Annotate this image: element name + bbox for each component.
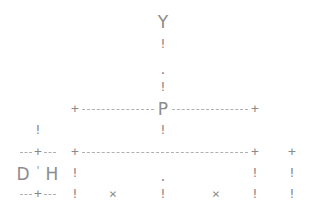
dashed-line xyxy=(44,152,56,153)
dashed-line xyxy=(172,109,248,110)
joint-plus: + xyxy=(34,145,42,159)
joint-plus: + xyxy=(251,145,259,159)
vertical-bar: ! xyxy=(159,37,167,51)
vertical-bar: ! xyxy=(71,187,79,201)
joint-plus: + xyxy=(71,145,79,159)
vertical-bar: ! xyxy=(251,166,259,180)
joint-plus: + xyxy=(251,102,259,116)
vertical-bar: ! xyxy=(159,123,167,137)
vertical-bar: ! xyxy=(251,187,259,201)
dashed-line xyxy=(20,194,32,195)
joint-plus: + xyxy=(34,187,42,201)
cross-mark: × xyxy=(109,187,117,201)
apostrophe: ' xyxy=(35,164,41,178)
dashed-line xyxy=(44,194,56,195)
dashed-line xyxy=(20,152,32,153)
vertical-bar: ! xyxy=(159,187,167,201)
vertical-bar: ! xyxy=(34,123,42,137)
cross-mark: × xyxy=(212,187,220,201)
dot: . xyxy=(159,63,167,77)
vertical-bar: ! xyxy=(71,166,79,180)
vertical-bar: ! xyxy=(288,166,296,180)
joint-plus: + xyxy=(288,145,296,159)
vertical-bar: ! xyxy=(288,187,296,201)
label-y: Y xyxy=(158,13,168,31)
label-d: D xyxy=(16,165,29,183)
joint-plus: + xyxy=(71,102,79,116)
label-p: P xyxy=(158,100,168,118)
vertical-bar: ! xyxy=(159,80,167,94)
dot: . xyxy=(159,170,167,184)
label-h: H xyxy=(46,165,59,183)
dashed-line xyxy=(82,152,248,153)
dashed-line xyxy=(82,109,154,110)
